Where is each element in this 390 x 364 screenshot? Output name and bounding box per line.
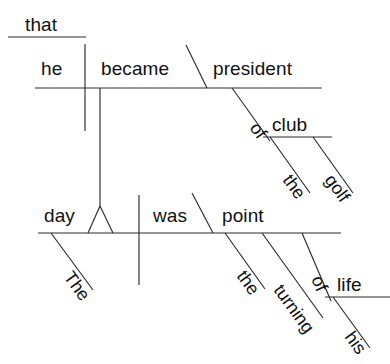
connector-label: that [25,14,58,35]
diagram-canvas: that he became president of club the gol… [0,0,390,364]
main-predicate-modifier-label-the: the [233,267,264,299]
subordinate-predicate-nominative-label: president [213,58,293,79]
sentence-diagram: that he became president of club the gol… [0,0,390,364]
prep-object-label-upper: club [272,114,307,135]
main-verb-label: was [152,205,187,226]
prep-object-modifier-label-main: his [341,328,371,358]
pedestal-right-leg [100,206,113,233]
predicate-nominative-divider-main [192,193,213,233]
prep-object-modifier-label-golf-upper: golf [321,171,355,207]
prep-object-modifier-label-the-upper: the [279,171,310,203]
main-subject-modifier-label: The [60,268,94,305]
subordinate-verb-label: became [101,58,169,79]
prep-object-label-main: life [337,274,362,295]
subordinate-subject-label: he [41,58,62,79]
preposition-label-upper: of [246,119,272,144]
preposition-label-main: of [307,272,332,295]
pedestal-left-leg [88,206,100,233]
main-subject-label: day [44,205,75,226]
main-predicate-nominative-label: point [222,205,264,226]
main-predicate-modifier-label-turning: turning [270,281,319,337]
predicate-nominative-divider-upper [186,45,207,88]
